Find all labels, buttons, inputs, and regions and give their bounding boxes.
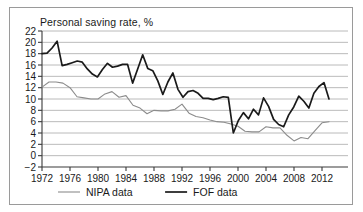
- x-tick-label-2004: 2004: [255, 173, 278, 184]
- legend-label-nipa-data: NIPA data: [86, 186, 133, 198]
- x-tick-label-1992: 1992: [171, 173, 194, 184]
- x-tick-label-1976: 1976: [59, 173, 82, 184]
- x-tick-label-2008: 2008: [283, 173, 306, 184]
- chart-legend: NIPA dataFOF data: [58, 186, 238, 198]
- gridlines-group: [42, 31, 348, 156]
- y-tick-label-10: 10: [25, 94, 37, 105]
- chart-plot: −20246810121416182022 197219761980198419…: [0, 0, 363, 212]
- series-line-nipa-data: [42, 82, 329, 141]
- tickmarks-group: [38, 31, 322, 171]
- x-tick-label-1984: 1984: [115, 173, 138, 184]
- y-axis-tick-labels: −20246810121416182022: [25, 26, 37, 173]
- y-tick-label-18: 18: [25, 48, 37, 59]
- x-tick-label-1988: 1988: [143, 173, 166, 184]
- data-series-group: [42, 41, 329, 141]
- y-tick-label-12: 12: [25, 82, 37, 93]
- x-tick-label-1996: 1996: [199, 173, 222, 184]
- y-tick-label-22: 22: [25, 26, 37, 37]
- y-tick-label-2: 2: [30, 139, 36, 150]
- x-axis-tick-labels: 1972197619801984198819921996200020042008…: [31, 173, 334, 184]
- x-tick-label-2012: 2012: [311, 173, 334, 184]
- y-tick-label-6: 6: [30, 116, 36, 127]
- x-tick-label-2000: 2000: [227, 173, 250, 184]
- x-tick-label-1972: 1972: [31, 173, 54, 184]
- y-tick-label-16: 16: [25, 60, 37, 71]
- series-line-fof-data: [42, 41, 329, 133]
- y-tick-label-0: 0: [30, 150, 36, 161]
- y-tick-label-14: 14: [25, 71, 37, 82]
- y-tick-label--2: −2: [25, 162, 37, 173]
- y-tick-label-20: 20: [25, 37, 37, 48]
- x-tick-label-1980: 1980: [87, 173, 110, 184]
- y-tick-label-8: 8: [30, 105, 36, 116]
- legend-label-fof-data: FOF data: [193, 186, 238, 198]
- y-tick-label-4: 4: [30, 128, 36, 139]
- chart-figure: Personal saving rate, % −202468101214161…: [0, 0, 363, 212]
